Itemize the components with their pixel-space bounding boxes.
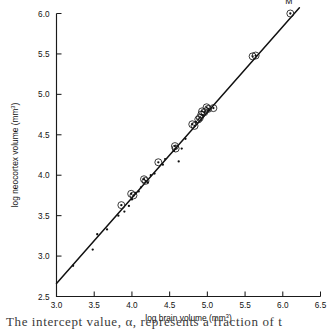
y-tick-label-4.5: 4.5 [38, 131, 50, 140]
x-axis-group: 3.03.54.04.55.05.56.06.5 [51, 292, 327, 311]
data-point-circled [157, 161, 159, 163]
data-point [164, 158, 166, 160]
y-axis-title: log neocortex volume (mm3) [10, 102, 20, 207]
series-circled-points [118, 10, 294, 209]
x-tick-label-5.0: 5.0 [202, 301, 214, 310]
x-tick-label-5.5: 5.5 [239, 301, 251, 310]
x-tick-label-3.5: 3.5 [89, 301, 101, 310]
data-point [138, 190, 140, 192]
plot-canvas: 2.53.03.54.04.55.05.56.03.03.54.04.55.05… [0, 0, 333, 333]
data-point [184, 138, 186, 140]
data-point [173, 150, 175, 152]
data-point [140, 186, 142, 188]
data-point [147, 181, 149, 183]
y-tick-label-3.5: 3.5 [38, 212, 50, 221]
data-point-circled [175, 147, 177, 149]
data-point-circled [289, 12, 291, 14]
data-point [208, 109, 210, 111]
data-point [162, 164, 164, 166]
y-tick-label-3.0: 3.0 [38, 252, 50, 261]
x-tick-label-6.0: 6.0 [277, 301, 289, 310]
data-point [195, 121, 197, 123]
y-tick-label-5.0: 5.0 [38, 90, 50, 99]
y-tick-label-5.5: 5.5 [38, 50, 50, 59]
data-point-circled [120, 204, 122, 206]
data-point [128, 205, 130, 207]
data-point [202, 114, 204, 116]
data-point [92, 248, 94, 250]
data-point [153, 172, 155, 174]
data-point [106, 228, 108, 230]
y-tick-label-6.0: 6.0 [38, 10, 50, 19]
x-tick-label-3.0: 3.0 [51, 301, 63, 310]
data-point-circled [193, 125, 195, 127]
data-point [131, 198, 133, 200]
data-point-circled [254, 54, 256, 56]
caption-fragment: The intercept value, α, represents a fra… [0, 317, 333, 333]
point-label-m: M [285, 0, 292, 6]
caption-text: The intercept value, α, represents a fra… [6, 317, 282, 330]
y-tick-label-2.5: 2.5 [38, 293, 50, 302]
axes-group [57, 14, 321, 297]
data-point [178, 160, 180, 162]
data-point [117, 214, 119, 216]
data-point-circled [212, 107, 214, 109]
data-point [150, 174, 152, 176]
data-point [96, 233, 98, 235]
scatter-plot-figure: 2.53.03.54.04.55.05.56.03.03.54.04.55.05… [0, 0, 333, 333]
x-tick-label-6.5: 6.5 [315, 301, 327, 310]
data-point [123, 210, 125, 212]
data-point [72, 265, 74, 267]
data-point [181, 147, 183, 149]
x-tick-label-4.0: 4.0 [126, 301, 138, 310]
y-axis-group: 2.53.03.54.04.55.05.56.0 [38, 10, 61, 302]
x-tick-label-4.5: 4.5 [164, 301, 176, 310]
data-point-circled [132, 194, 134, 196]
data-point-circled [144, 180, 146, 182]
data-point [135, 192, 137, 194]
y-tick-label-4.0: 4.0 [38, 171, 50, 180]
axis-spines [57, 14, 321, 297]
